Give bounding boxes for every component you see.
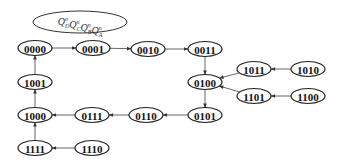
state-node-1111: 1111 [18,141,52,156]
state-node-0010: 0010 [131,42,165,57]
state-node-label: 0100 [194,77,217,89]
state-node-0011: 0011 [188,42,222,57]
state-node-label: 1000 [24,110,47,122]
state-node-label: 1101 [243,91,264,103]
state-node-1001: 1001 [18,75,52,90]
state-node-0111: 0111 [75,108,109,123]
state-node-label: 0001 [82,43,104,55]
state-node-0101: 0101 [188,108,222,123]
edge-1011-to-0100 [220,73,240,78]
state-node-label: 0111 [82,110,103,122]
state-node-label: 0010 [137,44,160,56]
state-node-1011: 1011 [237,62,271,77]
state-node-1000: 1000 [18,108,52,123]
state-node-label: 1110 [82,143,103,155]
state-transition-diagram: QnDQnCQnBQnA 000000010010001101001011101… [0,0,340,168]
nodes: 0000000100100011010010111010110111000101… [18,41,325,156]
state-node-label: 1011 [243,64,264,76]
state-node-0001: 0001 [76,41,110,56]
state-node-label: 0000 [24,43,47,55]
state-node-1101: 1101 [237,89,271,104]
state-node-label: 1001 [24,77,46,89]
state-node-1010: 1010 [291,62,325,77]
state-label: QnDQnCQnBQnA [33,11,127,38]
state-node-1100: 1100 [291,89,325,104]
state-node-label: 1010 [297,64,320,76]
state-node-label: 0101 [194,110,216,122]
state-node-label: 0110 [135,110,157,122]
state-node-1110: 1110 [75,141,109,156]
state-node-label: 0011 [194,44,215,56]
state-node-label: 1111 [25,143,45,155]
state-node-0000: 0000 [18,41,52,56]
state-node-0100: 0100 [188,75,222,90]
edge-1101-to-0100 [219,86,239,92]
state-node-0110: 0110 [129,108,163,123]
state-node-label: 1100 [297,91,319,103]
